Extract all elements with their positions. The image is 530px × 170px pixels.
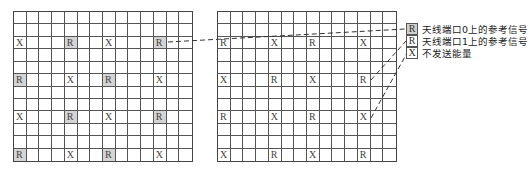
resource-element-cell xyxy=(256,74,269,86)
resource-element-cell xyxy=(179,12,192,24)
resource-element-cell xyxy=(179,87,192,99)
resource-element-cell xyxy=(231,74,244,86)
resource-element-cell xyxy=(128,37,141,49)
resource-element-cell xyxy=(371,87,384,99)
resource-element-cell xyxy=(27,74,40,86)
resource-element-cell xyxy=(358,99,371,111)
resource-element-cell xyxy=(320,99,333,111)
resource-element-cell xyxy=(256,87,269,99)
resource-element-cell xyxy=(256,37,269,49)
resource-element-cell xyxy=(65,124,78,136)
resource-element-cell xyxy=(141,111,154,123)
resource-element-cell xyxy=(167,149,180,161)
no-energy-cell: X xyxy=(14,111,27,123)
resource-element-cell xyxy=(294,62,307,74)
resource-element-cell xyxy=(39,74,52,86)
resource-element-cell xyxy=(256,124,269,136)
resource-element-cell xyxy=(307,12,320,24)
resource-element-cell xyxy=(243,12,256,24)
resource-element-cell xyxy=(282,136,295,148)
resource-element-cell xyxy=(27,149,40,161)
resource-element-cell xyxy=(179,111,192,123)
resource-element-cell xyxy=(52,136,65,148)
resource-element-cell xyxy=(179,24,192,36)
resource-element-cell xyxy=(39,149,52,161)
resource-element-cell xyxy=(358,124,371,136)
resource-element-cell xyxy=(294,37,307,49)
resource-element-cell xyxy=(179,49,192,61)
resource-element-cell xyxy=(39,24,52,36)
resource-element-cell xyxy=(231,49,244,61)
resource-element-cell xyxy=(14,99,27,111)
reference-signal-cell: R xyxy=(154,37,167,49)
resource-element-cell xyxy=(231,149,244,161)
resource-element-cell xyxy=(90,37,103,49)
resource-element-cell xyxy=(167,12,180,24)
resource-element-cell xyxy=(78,74,91,86)
resource-element-cell xyxy=(128,87,141,99)
resource-element-cell xyxy=(332,136,345,148)
resource-element-cell xyxy=(27,12,40,24)
resource-element-cell xyxy=(320,111,333,123)
resource-element-cell xyxy=(332,37,345,49)
resource-element-cell xyxy=(78,149,91,161)
resource-element-cell xyxy=(167,87,180,99)
resource-element-cell xyxy=(320,62,333,74)
resource-element-cell xyxy=(78,87,91,99)
resource-element-cell xyxy=(141,49,154,61)
resource-element-cell xyxy=(78,62,91,74)
resource-element-cell xyxy=(52,62,65,74)
resource-element-cell xyxy=(231,136,244,148)
resource-element-cell xyxy=(269,87,282,99)
resource-element-cell xyxy=(358,87,371,99)
resource-element-cell xyxy=(14,49,27,61)
resource-element-cell xyxy=(141,37,154,49)
resource-element-cell xyxy=(103,62,116,74)
resource-element-cell xyxy=(90,24,103,36)
resource-element-cell xyxy=(294,12,307,24)
legend-item-no-energy: X 不发送能量 xyxy=(406,47,528,59)
resource-element-cell xyxy=(167,74,180,86)
resource-element-cell xyxy=(269,49,282,61)
legend-symbol-box: R xyxy=(406,23,418,35)
resource-element-cell xyxy=(65,12,78,24)
resource-element-cell xyxy=(218,87,231,99)
resource-element-cell xyxy=(243,111,256,123)
resource-element-cell xyxy=(332,87,345,99)
resource-element-cell xyxy=(52,99,65,111)
resource-element-cell xyxy=(103,87,116,99)
resource-element-cell xyxy=(27,62,40,74)
resource-element-cell xyxy=(141,24,154,36)
resource-element-cell xyxy=(243,37,256,49)
resource-element-cell xyxy=(116,49,129,61)
resource-element-cell xyxy=(27,37,40,49)
resource-element-cell xyxy=(179,62,192,74)
resource-element-cell xyxy=(358,12,371,24)
resource-element-cell xyxy=(141,87,154,99)
resource-element-cell xyxy=(307,87,320,99)
resource-element-cell xyxy=(52,12,65,24)
resource-element-cell xyxy=(294,49,307,61)
resource-element-cell xyxy=(154,12,167,24)
resource-element-cell xyxy=(52,87,65,99)
resource-element-cell xyxy=(78,111,91,123)
resource-element-cell xyxy=(371,136,384,148)
resource-element-cell xyxy=(90,111,103,123)
resource-element-cell xyxy=(218,12,231,24)
resource-element-cell xyxy=(345,49,358,61)
resource-element-cell xyxy=(179,74,192,86)
resource-element-cell xyxy=(294,124,307,136)
resource-element-cell xyxy=(256,111,269,123)
resource-element-cell xyxy=(90,136,103,148)
resource-element-cell xyxy=(65,62,78,74)
resource-element-cell xyxy=(128,136,141,148)
legend-label: 不发送能量 xyxy=(422,46,472,60)
resource-element-cell xyxy=(345,37,358,49)
resource-element-cell xyxy=(371,49,384,61)
resource-element-cell xyxy=(256,136,269,148)
resource-element-cell xyxy=(332,12,345,24)
resource-element-cell xyxy=(307,99,320,111)
resource-element-cell xyxy=(371,37,384,49)
resource-element-cell xyxy=(243,87,256,99)
resource-element-cell xyxy=(78,24,91,36)
